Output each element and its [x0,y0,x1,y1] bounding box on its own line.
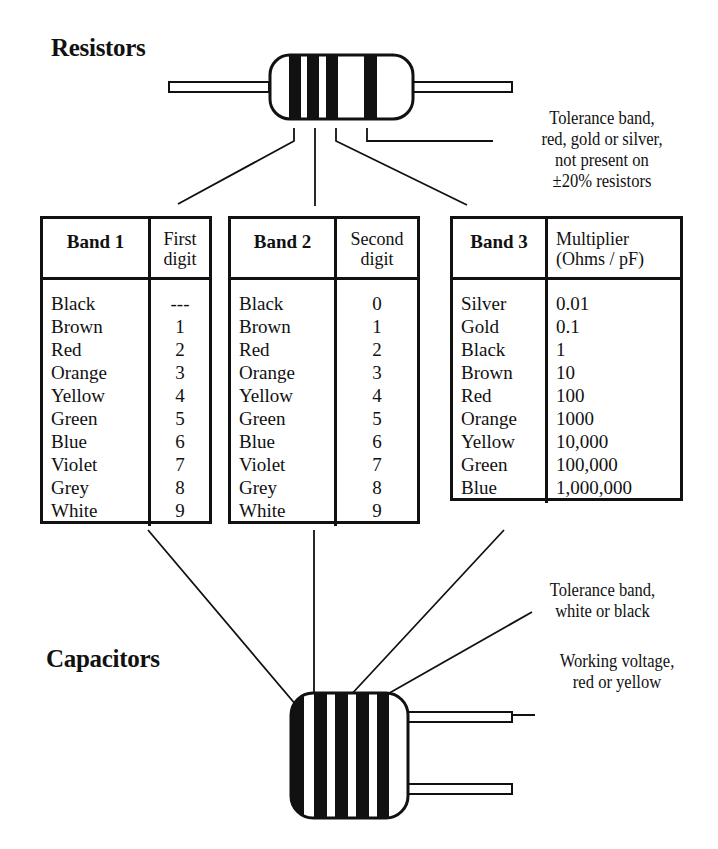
table-cell: Violet [51,453,148,476]
header-line: digit [151,249,209,269]
table-cell: Black [461,338,545,361]
table-cell: Orange [239,361,334,384]
table-cell: 2 [337,338,417,361]
table-body: Black Brown Red Orange Yellow Green Blue… [43,280,209,526]
table-cell: --- [151,292,209,315]
table-cell: 7 [151,453,209,476]
color-column: Silver Gold Black Brown Red Orange Yello… [453,280,548,503]
table-cell: Yellow [461,430,545,453]
table-cell: 6 [151,430,209,453]
table-header: Band 2 Second digit [231,219,417,280]
capacitor-bottom-lead [408,784,512,794]
table-cell: 1 [556,338,680,361]
table-cell: 2 [151,338,209,361]
table-cell: 10,000 [556,430,680,453]
note-line: Tolerance band, [527,580,679,601]
capacitors-heading: Capacitors [46,645,160,673]
table-cell: White [51,499,148,522]
table-cell: Violet [239,453,334,476]
note-line: ±20% resistors [501,171,703,192]
table-cell: Blue [461,476,545,499]
note-line: red, gold or silver, [501,129,703,150]
color-column: Black Brown Red Orange Yellow Green Blue… [231,280,337,526]
table-cell: 4 [337,384,417,407]
table-cell: Blue [239,430,334,453]
table-cell: Brown [239,315,334,338]
table-cell: Grey [239,476,334,499]
table-cell: Orange [461,407,545,430]
color-column: Black Brown Red Orange Yellow Green Blue… [43,280,151,526]
table-cell: 1 [337,315,417,338]
table-cell: 1000 [556,407,680,430]
note-line: white or black [527,601,679,622]
table-cell: 3 [337,361,417,384]
table-cell: 9 [337,499,417,522]
table-cell: Yellow [239,384,334,407]
band1-table: Band 1 First digit Black Brown Red Orang… [40,216,212,524]
table-cell: 9 [151,499,209,522]
header-value-label: First digit [151,219,209,277]
table-cell: 8 [151,476,209,499]
table-cell: 1 [151,315,209,338]
table-cell: Brown [51,315,148,338]
capacitor-voltage-note: Working voltage, red or yellow [539,651,695,693]
resistor-right-lead [412,82,512,92]
value-column: --- 1 2 3 4 5 6 7 8 9 [151,280,209,526]
header-band-label: Band 1 [43,219,151,277]
table-cell: Green [239,407,334,430]
header-line: (Ohms / pF) [556,249,680,269]
table-cell: 3 [151,361,209,384]
table-cell: 8 [337,476,417,499]
table-cell: 4 [151,384,209,407]
table-cell: 100 [556,384,680,407]
note-line: Working voltage, [539,651,695,672]
value-column: 0 1 2 3 4 5 6 7 8 9 [337,280,417,526]
band2-table: Band 2 Second digit Black Brown Red Oran… [228,216,420,524]
header-line: digit [337,249,417,269]
table-cell: Black [51,292,148,315]
table-cell: Silver [461,292,545,315]
table-cell: Brown [461,361,545,384]
capacitor-body [291,693,408,818]
table-cell: 0 [337,292,417,315]
table-cell: Red [461,384,545,407]
table-cell: 1,000,000 [556,476,680,499]
table-cell: Green [51,407,148,430]
table-cell: Black [239,292,334,315]
table-cell: 0.1 [556,315,680,338]
header-band-label: Band 2 [231,219,337,277]
table-cell: Orange [51,361,148,384]
table-cell: 5 [151,407,209,430]
resistor-left-lead [169,82,269,92]
table-cell: 5 [337,407,417,430]
table-body: Silver Gold Black Brown Red Orange Yello… [453,280,680,503]
table-cell: Yellow [51,384,148,407]
table-cell: Gold [461,315,545,338]
table-cell: 100,000 [556,453,680,476]
table-cell: Grey [51,476,148,499]
table-cell: Blue [51,430,148,453]
value-column: 0.01 0.1 1 10 100 1000 10,000 100,000 1,… [548,280,680,503]
note-line: not present on [501,150,703,171]
header-line: First [151,229,209,249]
header-value-label: Second digit [337,219,417,277]
table-cell: Red [239,338,334,361]
table-cell: 7 [337,453,417,476]
header-line: Second [337,229,417,249]
header-band-label: Band 3 [453,219,548,277]
note-line: red or yellow [539,672,695,693]
table-cell: 0.01 [556,292,680,315]
table-cell: Red [51,338,148,361]
header-line: Multiplier [556,229,680,249]
band3-table: Band 3 Multiplier (Ohms / pF) Silver Gol… [450,216,683,501]
table-header: Band 1 First digit [43,219,209,280]
resistors-heading: Resistors [51,34,146,62]
note-line: Tolerance band, [501,108,703,129]
table-cell: 6 [337,430,417,453]
resistor-tolerance-note: Tolerance band, red, gold or silver, not… [501,108,703,192]
table-cell: White [239,499,334,522]
capacitor-tolerance-note: Tolerance band, white or black [527,580,679,622]
table-body: Black Brown Red Orange Yellow Green Blue… [231,280,417,526]
header-value-label: Multiplier (Ohms / pF) [548,219,680,277]
table-header: Band 3 Multiplier (Ohms / pF) [453,219,680,280]
